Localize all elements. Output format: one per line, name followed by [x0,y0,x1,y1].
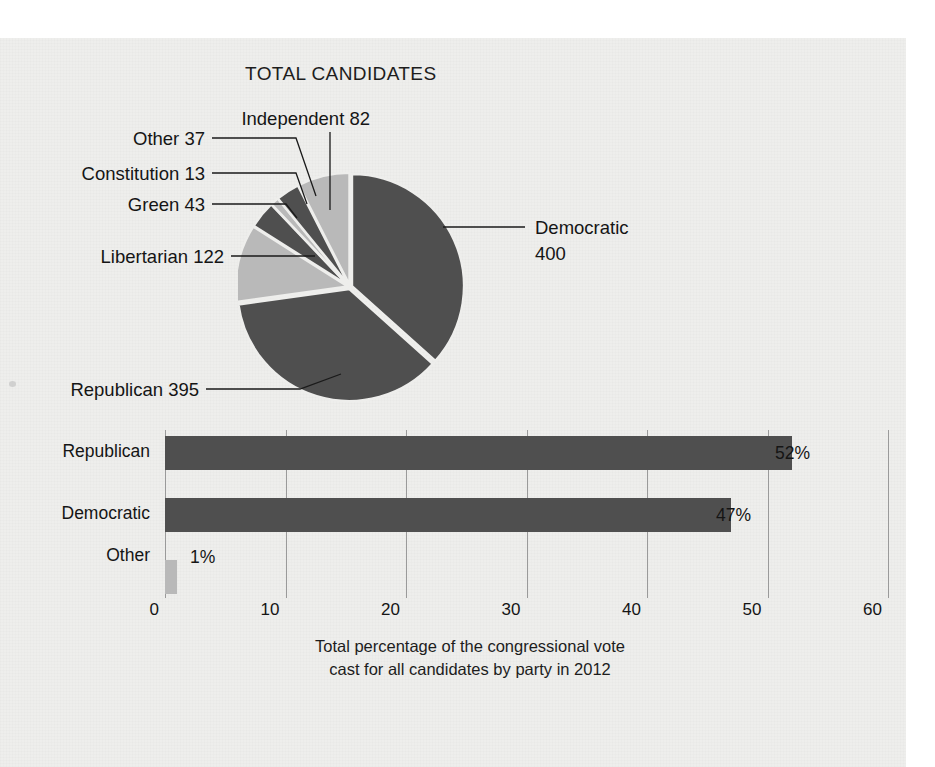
figure-page: TOTAL CANDIDATES Independent 82 Other 37… [0,0,935,767]
bar-category-other: Other [0,545,150,566]
bar-other [165,560,177,594]
bar-value-democratic: 47% [716,505,751,526]
figure-caption-line-2: cast for all candidates by party in 2012 [130,660,810,679]
pie-chart-title: TOTAL CANDIDATES [245,63,437,85]
pie-label-other: Other 37 [0,128,205,150]
x-tick-label-10: 10 [240,600,280,620]
x-tick-label-40: 40 [601,600,641,620]
bar-value-republican: 52% [775,443,810,464]
bar-value-other: 1% [190,547,215,568]
bar-republican [165,436,792,470]
x-tick-label-30: 30 [481,600,521,620]
figure-caption-line-1: Total percentage of the congressional vo… [130,637,810,656]
gridline-60 [888,430,889,598]
pie-label-constitution: Constitution 13 [0,163,205,185]
pie-label-republican: Republican 395 [0,379,199,401]
bar-democratic [165,498,731,532]
x-tick-label-50: 50 [722,600,762,620]
pie-label-green: Green 43 [0,194,205,216]
pie-label-democratic: Democratic [535,217,629,239]
bar-category-democratic: Democratic [0,503,150,524]
scan-artifact-speck [9,381,16,387]
pie-label-democratic-value: 400 [535,243,566,265]
x-tick-label-20: 20 [360,600,400,620]
x-tick-label-60: 60 [842,600,882,620]
bar-category-republican: Republican [0,441,150,462]
pie-label-independent: Independent 82 [0,108,370,130]
x-tick-label-0: 0 [119,600,159,620]
figure-stage: TOTAL CANDIDATES Independent 82 Other 37… [0,0,935,767]
pie-chart [238,155,498,417]
pie-label-libertarian: Libertarian 122 [0,246,224,268]
